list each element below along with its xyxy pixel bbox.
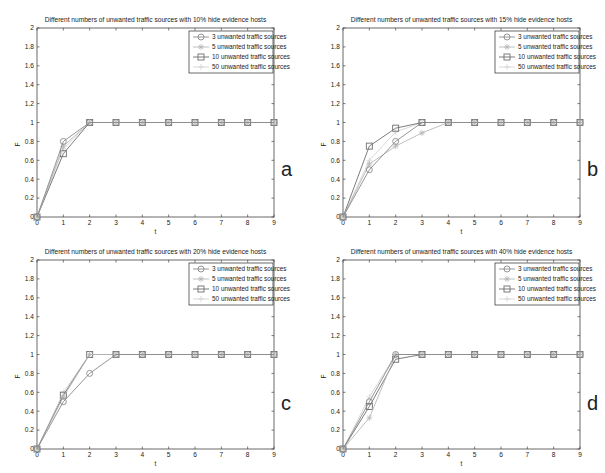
y-tick-label: 0.8	[25, 370, 34, 377]
x-tick-label: 1	[367, 219, 371, 226]
series-2	[34, 352, 277, 453]
legend-label: 10 unwanted traffic sources	[212, 53, 290, 60]
x-tick-label: 8	[246, 451, 250, 458]
series-1	[340, 120, 583, 221]
y-tick-label: 1.4	[25, 313, 34, 320]
x-tick-label: 4	[446, 451, 450, 458]
chart-panel-b: Different numbers of unwanted traffic so…	[306, 0, 605, 236]
x-tick-label: 9	[272, 451, 276, 458]
x-tick-label: 3	[420, 219, 424, 226]
legend-label: 5 unwanted traffic sources	[518, 275, 592, 282]
y-tick-label: 1	[30, 351, 34, 358]
x-tick-label: 2	[394, 451, 398, 458]
series-line	[343, 355, 580, 450]
x-tick-label: 3	[420, 451, 424, 458]
legend-label: 3 unwanted traffic sources	[212, 265, 286, 272]
x-tick-label: 4	[140, 219, 144, 226]
panel-letter-d: d	[587, 392, 598, 415]
y-tick-label: 1.2	[25, 332, 34, 339]
y-tick-label: 1.8	[25, 43, 34, 50]
y-tick-label: 1.2	[25, 100, 34, 107]
panel-letter-b: b	[587, 158, 598, 181]
line-chart-a: Different numbers of unwanted traffic so…	[0, 0, 302, 236]
x-tick-label: 5	[473, 451, 477, 458]
x-tick-label: 3	[114, 451, 118, 458]
series-line	[37, 123, 274, 218]
x-tick-label: 2	[88, 451, 92, 458]
chart-title: Different numbers of unwanted traffic so…	[45, 16, 267, 23]
legend-label: 10 unwanted traffic sources	[518, 53, 596, 60]
series-line	[37, 123, 274, 218]
legend-label: 50 unwanted traffic sources	[212, 295, 290, 302]
series-4	[340, 120, 583, 221]
x-tick-label: 8	[552, 219, 556, 226]
x-tick-label: 1	[61, 219, 65, 226]
y-tick-label: 0.6	[25, 157, 34, 164]
x-tick-label: 9	[272, 219, 276, 226]
legend: 3 unwanted traffic sources5 unwanted tra…	[495, 31, 596, 73]
series-line	[343, 123, 580, 218]
legend-label: 5 unwanted traffic sources	[212, 43, 286, 50]
x-tick-label: 8	[246, 219, 250, 226]
x-tick-label: 1	[367, 451, 371, 458]
legend: 3 unwanted traffic sources5 unwanted tra…	[495, 263, 596, 305]
legend-label: 5 unwanted traffic sources	[518, 43, 592, 50]
panel-letter-a: a	[281, 158, 292, 181]
y-tick-label: 1.2	[331, 100, 340, 107]
star-marker	[504, 276, 510, 282]
series-2	[340, 352, 583, 453]
y-tick-label: 0.4	[331, 176, 340, 183]
x-tick-label: 3	[114, 219, 118, 226]
star-marker	[198, 44, 204, 50]
y-axis-label: F	[14, 374, 21, 378]
star-marker	[198, 276, 204, 282]
series-line	[37, 123, 274, 218]
series-line	[343, 123, 580, 218]
y-tick-label: 1.4	[331, 313, 340, 320]
x-tick-label: 4	[446, 219, 450, 226]
x-tick-label: 1	[61, 451, 65, 458]
y-tick-label: 2	[336, 24, 340, 31]
x-tick-label: 6	[193, 219, 197, 226]
star-marker	[419, 130, 425, 136]
y-axis-label: F	[320, 374, 327, 378]
line-chart-c: Different numbers of unwanted traffic so…	[0, 232, 302, 468]
line-chart-d: Different numbers of unwanted traffic so…	[306, 232, 605, 468]
legend-label: 3 unwanted traffic sources	[518, 265, 592, 272]
series-1	[34, 352, 277, 453]
chart-panel-c: Different numbers of unwanted traffic so…	[0, 232, 302, 468]
series-3	[34, 120, 277, 221]
line-chart-b: Different numbers of unwanted traffic so…	[306, 0, 605, 236]
legend-label: 5 unwanted traffic sources	[212, 275, 286, 282]
y-tick-label: 1.8	[25, 275, 34, 282]
y-tick-label: 1.6	[25, 294, 34, 301]
y-tick-label: 0.6	[25, 389, 34, 396]
legend: 3 unwanted traffic sources5 unwanted tra…	[189, 263, 290, 305]
x-tick-label: 7	[219, 451, 223, 458]
series-line	[343, 355, 580, 450]
y-tick-label: 1.6	[331, 62, 340, 69]
series-line	[37, 355, 274, 450]
series-line	[343, 355, 580, 450]
y-tick-label: 2	[30, 24, 34, 31]
chart-panel-d: Different numbers of unwanted traffic so…	[306, 232, 605, 468]
star-marker	[504, 44, 510, 50]
legend-label: 10 unwanted traffic sources	[518, 285, 596, 292]
series-line	[37, 355, 274, 450]
y-tick-label: 1.4	[25, 81, 34, 88]
series-line	[343, 123, 580, 218]
series-4	[34, 352, 277, 453]
star-marker	[366, 415, 372, 421]
x-tick-label: 7	[525, 219, 529, 226]
legend-label: 3 unwanted traffic sources	[212, 33, 286, 40]
y-tick-label: 0.6	[331, 157, 340, 164]
x-tick-label: 2	[394, 219, 398, 226]
y-tick-label: 0.4	[25, 408, 34, 415]
chart-title: Different numbers of unwanted traffic so…	[351, 16, 573, 23]
x-tick-label: 6	[499, 219, 503, 226]
x-tick-label: 4	[140, 451, 144, 458]
legend-label: 10 unwanted traffic sources	[212, 285, 290, 292]
star-marker	[87, 352, 93, 358]
x-tick-label: 5	[473, 219, 477, 226]
y-tick-label: 2	[336, 256, 340, 263]
